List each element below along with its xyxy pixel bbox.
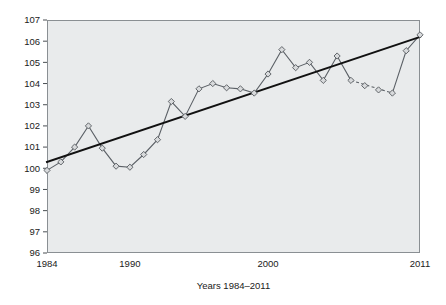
y-tick-label: 100 bbox=[24, 163, 40, 174]
y-axis-ticks: 96979899100101102103104105106107 bbox=[24, 14, 47, 258]
chart-container: 96979899100101102103104105106107 1984199… bbox=[0, 0, 446, 305]
x-tick-label: 2000 bbox=[257, 258, 278, 269]
y-tick-label: 104 bbox=[24, 78, 40, 89]
x-tick-label: 1990 bbox=[119, 258, 140, 269]
y-tick-label: 105 bbox=[24, 57, 40, 68]
y-tick-label: 99 bbox=[29, 184, 40, 195]
x-axis-ticks: 1984199020002011 bbox=[36, 258, 430, 269]
x-tick-label: 2011 bbox=[410, 258, 430, 269]
y-tick-label: 106 bbox=[24, 36, 40, 47]
y-tick-label: 101 bbox=[24, 141, 40, 152]
y-tick-label: 102 bbox=[24, 120, 40, 131]
y-tick-label: 107 bbox=[24, 14, 40, 25]
x-tick-label: 1984 bbox=[36, 258, 57, 269]
y-tick-label: 103 bbox=[24, 99, 40, 110]
line-chart: 96979899100101102103104105106107 1984199… bbox=[0, 0, 446, 305]
y-tick-label: 98 bbox=[29, 205, 40, 216]
y-tick-label: 96 bbox=[29, 247, 40, 258]
x-axis-title: Years 1984–2011 bbox=[197, 280, 270, 291]
y-tick-label: 97 bbox=[29, 226, 40, 237]
